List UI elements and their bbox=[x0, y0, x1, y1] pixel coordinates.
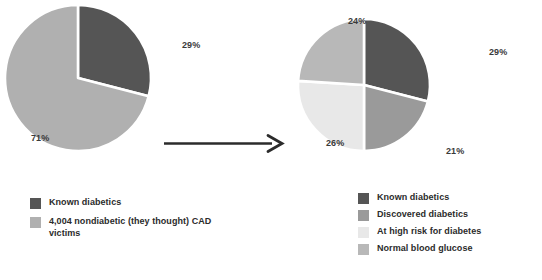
legend-item-discovered-diabetics[interactable]: Discovered diabetics bbox=[358, 209, 542, 221]
left-pie-legend: Known diabetics 4,004 nondiabetic (they … bbox=[30, 197, 230, 246]
legend-item-label: At high risk for diabetes bbox=[377, 226, 481, 238]
right-pie-chart bbox=[295, 16, 435, 156]
right-pie-label-discovered-diabetics: 21% bbox=[446, 146, 464, 156]
legend-item-known-diabetics[interactable]: Known diabetics bbox=[358, 192, 542, 204]
legend-item-label: Normal blood glucose bbox=[377, 243, 473, 255]
legend-item-normal-blood-glucose[interactable]: Normal blood glucose bbox=[358, 243, 542, 255]
pie-slice-normal-blood-glucose[interactable] bbox=[298, 19, 364, 85]
right-pie-label-normal-blood-glucose: 24% bbox=[348, 16, 366, 26]
legend-item-label: Known diabetics bbox=[49, 197, 121, 209]
legend-swatch-icon bbox=[358, 227, 369, 238]
right-pie-label-at-high-risk: 26% bbox=[326, 138, 344, 148]
left-pie-label-nondiabetic-cad: 71% bbox=[31, 133, 49, 143]
left-pie-chart bbox=[0, 0, 156, 156]
right-pie-legend: Known diabetics Discovered diabetics At … bbox=[358, 192, 542, 260]
legend-swatch-icon bbox=[30, 217, 41, 228]
legend-item-at-high-risk[interactable]: At high risk for diabetes bbox=[358, 226, 542, 238]
legend-swatch-icon bbox=[358, 244, 369, 255]
legend-item-known-diabetics[interactable]: Known diabetics bbox=[30, 197, 230, 209]
right-arrow-icon bbox=[160, 132, 290, 156]
legend-swatch-icon bbox=[30, 198, 41, 209]
legend-swatch-icon bbox=[358, 193, 369, 204]
legend-item-label: Known diabetics bbox=[377, 192, 449, 204]
legend-item-label: 4,004 nondiabetic (they thought) CAD vic… bbox=[49, 216, 230, 239]
legend-item-nondiabetic-cad[interactable]: 4,004 nondiabetic (they thought) CAD vic… bbox=[30, 216, 230, 239]
legend-swatch-icon bbox=[358, 210, 369, 221]
chart-canvas: 29% 71% 29% 21% 26% 24% Known diabetics … bbox=[0, 0, 542, 280]
left-pie-label-known-diabetics: 29% bbox=[182, 40, 200, 50]
right-pie-label-known-diabetics: 29% bbox=[489, 47, 507, 57]
legend-item-label: Discovered diabetics bbox=[377, 209, 468, 221]
